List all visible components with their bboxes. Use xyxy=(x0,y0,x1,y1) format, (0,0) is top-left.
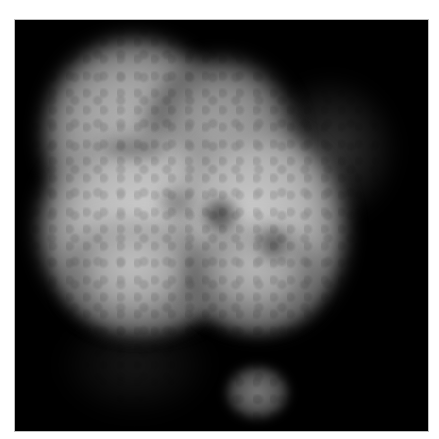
texture-overlay xyxy=(15,20,428,431)
micrograph-frame xyxy=(15,20,428,431)
